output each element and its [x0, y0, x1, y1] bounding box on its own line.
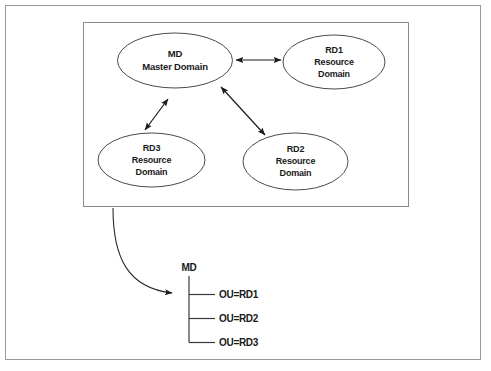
node-rd2-line3: Domain — [280, 168, 312, 178]
node-md-line1: MD — [168, 48, 183, 59]
node-rd2: RD2 Resource Domain — [243, 133, 348, 190]
node-rd1-line3: Domain — [318, 69, 350, 79]
tree-root-label: MD — [182, 262, 197, 273]
node-rd1-line2: Resource — [314, 57, 354, 67]
tree-item-ou-rd1: OU=RD1 — [219, 289, 259, 300]
node-rd2-line2: Resource — [276, 156, 316, 166]
node-rd3-line2: Resource — [132, 155, 172, 165]
ou-tree: MD OU=RD1 OU=RD2 OU=RD3 — [182, 262, 259, 348]
node-rd3-line3: Domain — [136, 167, 168, 177]
tree-item-ou-rd2: OU=RD2 — [219, 313, 259, 324]
connector-md-rd2 — [221, 87, 265, 135]
node-rd3-line1: RD3 — [143, 143, 161, 153]
tree-item-ou-rd3: OU=RD3 — [219, 337, 259, 348]
node-rd3: RD3 Resource Domain — [98, 133, 205, 187]
diagram-page: MD Master Domain RD1 Resource Domain RD3… — [0, 0, 491, 371]
domain-trust-diagram: MD Master Domain RD1 Resource Domain RD3… — [0, 0, 491, 371]
node-md: MD Master Domain — [118, 33, 233, 88]
node-rd1-line1: RD1 — [325, 45, 343, 55]
node-md-line2: Master Domain — [142, 61, 208, 72]
domain-to-ou-arrow — [113, 208, 172, 293]
node-rd1: RD1 Resource Domain — [283, 35, 385, 89]
connector-md-rd3 — [145, 99, 168, 130]
node-rd2-line1: RD2 — [287, 144, 305, 154]
